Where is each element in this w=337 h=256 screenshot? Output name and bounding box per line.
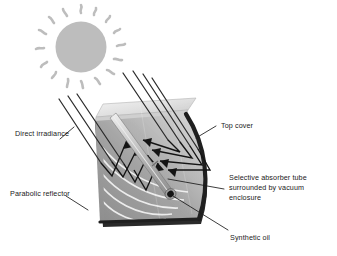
sun bbox=[36, 5, 125, 88]
label-absorber-tube-line1: Selective absorber tube bbox=[229, 173, 307, 182]
label-absorber-tube-line3: enclosure bbox=[229, 193, 261, 202]
diagram-canvas: Direct irradiance Parabolic reflector To… bbox=[0, 0, 337, 256]
label-parabolic-reflector: Parabolic reflector bbox=[10, 189, 70, 198]
label-absorber-tube-line2: surrounded by vacuum bbox=[229, 183, 304, 192]
sun-disc bbox=[56, 22, 107, 73]
label-direct-irradiance: Direct irradiance bbox=[15, 129, 69, 138]
label-synthetic-oil: Synthetic oil bbox=[230, 233, 270, 242]
solar-collector-diagram: Direct irradiance Parabolic reflector To… bbox=[0, 0, 337, 256]
leader-top-cover bbox=[196, 126, 216, 138]
leader-parabolic-reflector bbox=[66, 196, 88, 210]
label-top-cover: Top cover bbox=[221, 121, 254, 130]
